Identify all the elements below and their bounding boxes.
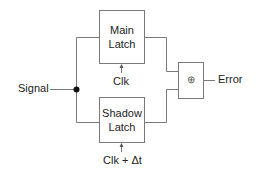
main-latch-label-line1: Main: [100, 23, 144, 37]
error-label: Error: [218, 73, 242, 86]
main-latch-label: Main Latch: [100, 23, 144, 51]
signal-label: Signal: [18, 82, 49, 95]
main-latch-output-wire: [145, 38, 179, 72]
shadow-latch-output-wire: [145, 90, 179, 123]
junction-dot-icon: [74, 87, 80, 93]
main-latch-label-line2: Latch: [100, 37, 144, 51]
shadow-latch-label-line2: Latch: [100, 120, 144, 134]
shadow-latch-label: Shadow Latch: [100, 106, 144, 134]
clk-delayed-arrow-icon: [120, 143, 124, 147]
clk-label: Clk: [113, 75, 129, 88]
clk-delayed-label: Clk + Δt: [103, 154, 142, 167]
clk-arrow-icon: [120, 64, 124, 68]
shadow-latch-label-line1: Shadow: [100, 106, 144, 120]
xor-symbol: ⊕: [179, 74, 203, 86]
